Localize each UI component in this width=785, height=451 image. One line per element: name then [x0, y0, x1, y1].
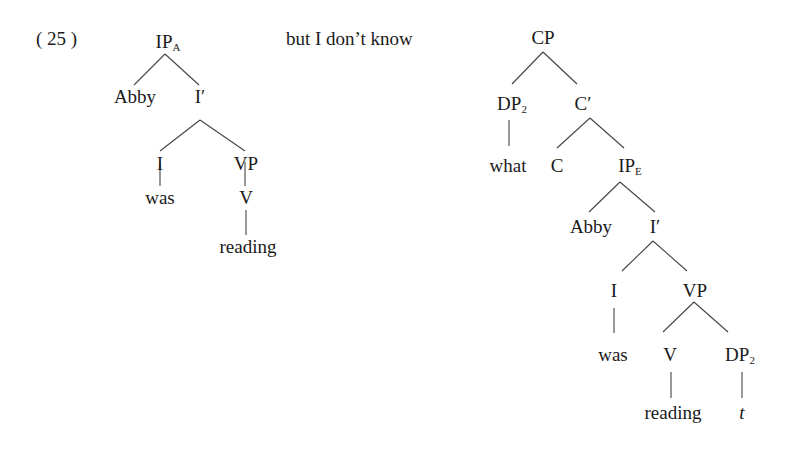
node-i-embedded: I	[611, 280, 617, 302]
node-ip-a: IPA	[156, 31, 181, 53]
node-cp: CP	[531, 27, 554, 49]
node-reading: reading	[220, 236, 277, 258]
node-i: I	[157, 153, 163, 175]
node-ip-e: IPE	[618, 155, 642, 177]
example-number: ( 25 )	[36, 28, 77, 50]
node-was: was	[145, 187, 175, 209]
node-what: what	[490, 155, 527, 177]
tree-edges	[0, 0, 785, 451]
node-vp-embedded: VP	[683, 280, 707, 302]
node-dp-2: DP2	[497, 93, 527, 115]
node-was-embedded: was	[598, 344, 628, 366]
node-trace: t	[739, 402, 744, 424]
node-c-bar: C′	[575, 93, 592, 115]
node-abby: Abby	[114, 86, 156, 108]
node-c: C	[551, 155, 564, 177]
connector-text: but I don’t know	[286, 28, 413, 50]
node-vp: VP	[234, 153, 258, 175]
node-v: V	[239, 187, 253, 209]
node-abby-embedded: Abby	[570, 216, 612, 238]
node-i-bar: I′	[195, 86, 205, 108]
node-v-embedded: V	[663, 344, 677, 366]
node-i-bar-embedded: I′	[650, 216, 660, 238]
node-dp-2-object: DP2	[725, 344, 755, 366]
node-reading-embedded: reading	[645, 402, 702, 424]
